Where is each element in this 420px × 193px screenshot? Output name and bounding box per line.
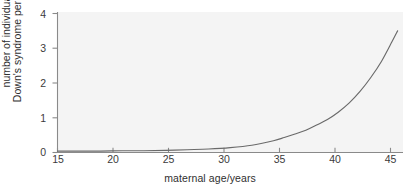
plot-background: [57, 12, 403, 152]
y-tick-label-0: 0: [32, 147, 46, 158]
y-tick-label-1: 1: [32, 113, 46, 124]
chart-figure: 0 1 2 3 4 15 20 25 30 35 40 45 maternal …: [0, 0, 420, 193]
y-axis-title: number of individuals with Down's syndro…: [0, 0, 29, 107]
x-tick-label-30: 30: [218, 154, 230, 165]
x-tick-label-35: 35: [274, 154, 286, 165]
x-tick-label-45: 45: [385, 154, 397, 165]
x-axis-title: maternal age/years: [0, 172, 420, 184]
x-tick-label-25: 25: [163, 154, 175, 165]
y-axis-title-line-2: Down's syndrome per 100 births: [12, 0, 24, 102]
y-tick-label-3: 3: [32, 43, 46, 54]
y-tick-label-2: 2: [32, 78, 46, 89]
y-tick-label-4: 4: [32, 8, 46, 19]
x-tick-label-20: 20: [107, 154, 119, 165]
y-axis-ticks: [53, 14, 58, 153]
x-tick-label-40: 40: [329, 154, 341, 165]
x-tick-label-15: 15: [52, 154, 64, 165]
